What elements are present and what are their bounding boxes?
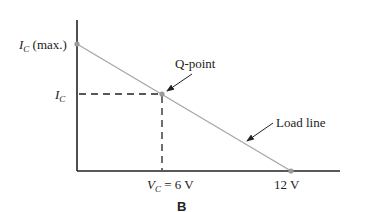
load-line-label: Load line bbox=[276, 115, 326, 130]
q-point-label: Q-point bbox=[175, 56, 216, 71]
ic-max-label: IC (max.) bbox=[18, 37, 67, 54]
ic-label: IC bbox=[54, 87, 66, 104]
q-point-arrow bbox=[167, 74, 192, 91]
ic-max-point bbox=[74, 41, 79, 46]
v-max-label: 12 V bbox=[274, 177, 300, 192]
v-max-point bbox=[288, 168, 293, 173]
panel-label: B bbox=[177, 199, 186, 212]
q-point-marker bbox=[159, 91, 164, 96]
vc-label: VC = 6 V bbox=[147, 177, 194, 194]
load-line-arrow bbox=[247, 123, 273, 141]
load-line-diagram: IC (max.) IC Q-point Load line VC = 6 V … bbox=[0, 0, 369, 212]
